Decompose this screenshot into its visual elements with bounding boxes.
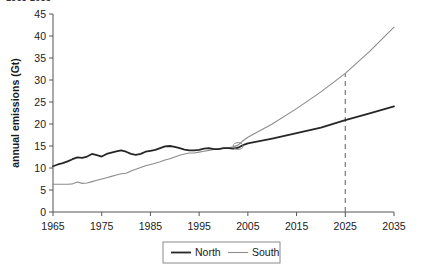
x-tick-label: 1985 (139, 220, 163, 232)
y-tick-label: 25 (34, 96, 46, 108)
y-tick-label: 20 (34, 118, 46, 130)
x-tick-label: 1995 (187, 220, 211, 232)
y-tick-label: 40 (34, 30, 46, 42)
chart-legend: North South (163, 242, 280, 263)
legend-label-south: South (252, 246, 280, 258)
y-tick-label: 0 (40, 206, 46, 218)
y-tick-label: 35 (34, 52, 46, 64)
x-tick-label: 2025 (334, 220, 358, 232)
y-tick-label: 30 (34, 74, 46, 86)
y-axis-title: annual emissions (Gt) (9, 58, 21, 168)
line-chart: 051015202530354045 196519751985199520052… (0, 0, 431, 271)
x-tick-label: 2015 (285, 220, 309, 232)
emissions-chart-figure: 1965-2035 051015202530354045 19651975198… (0, 0, 431, 271)
x-tick-label: 2005 (236, 220, 260, 232)
legend-label-north: North (195, 246, 221, 258)
x-tick-label: 1965 (41, 220, 65, 232)
y-tick-label: 15 (34, 140, 46, 152)
x-tick-label: 1975 (90, 220, 114, 232)
y-tick-label: 5 (40, 184, 46, 196)
y-tick-label: 10 (34, 162, 46, 174)
clipped-heading: 1965-2035 (6, 0, 51, 3)
y-tick-label: 45 (34, 8, 46, 20)
x-tick-label: 2035 (382, 220, 406, 232)
